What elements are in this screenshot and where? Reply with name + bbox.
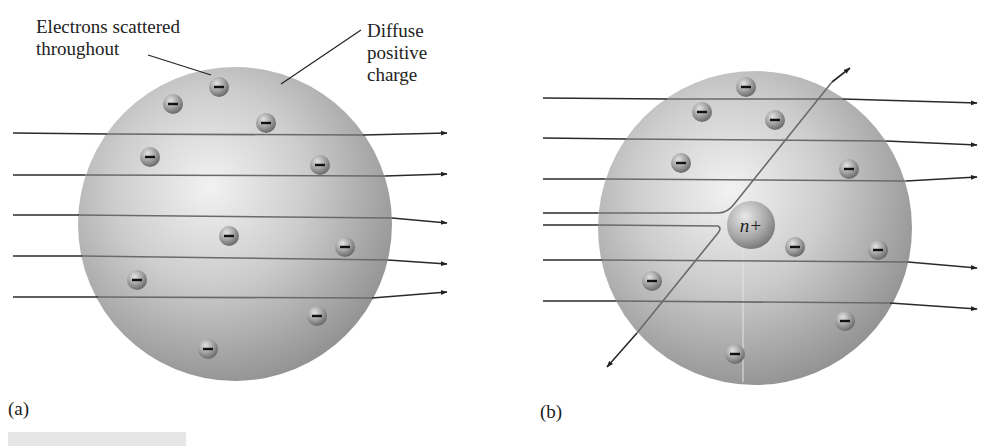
panel-label-a: (a) [8,398,29,420]
minus-sign-icon [340,246,350,248]
minus-sign-icon [840,320,850,322]
particle-path [890,303,977,309]
particle-path [98,297,372,298]
annotation-electrons: Electrons scattered throughout [36,16,180,60]
electron [209,77,229,97]
minus-sign-icon [770,119,780,121]
electron [335,237,355,257]
minus-sign-icon [261,122,271,124]
atom-model-diagram: n+ [0,0,993,446]
minus-sign-icon [312,315,322,317]
particle-path [543,98,667,99]
leader-line-positive-charge [281,30,361,84]
electron [839,159,859,179]
nucleus-label: n+ [740,215,762,236]
panel-label-b: (b) [540,401,562,423]
panel-b: n+ [543,68,977,385]
minus-sign-icon [730,353,740,355]
particle-path [85,175,385,176]
particle-path [107,134,363,135]
minus-sign-icon [145,156,155,158]
minus-sign-icon [697,111,707,113]
electron [127,270,147,290]
minus-sign-icon [203,348,213,350]
electron [736,77,756,97]
annotation-line: Electrons scattered [36,16,180,38]
electron [140,147,160,167]
nucleus: n+ [727,201,775,249]
minus-sign-icon [132,279,142,281]
minus-sign-icon [873,249,883,251]
minus-sign-icon [741,86,751,88]
minus-sign-icon [844,168,854,170]
electron [671,153,691,173]
minus-sign-icon [214,86,224,88]
electron [163,94,183,114]
minus-sign-icon [224,235,234,237]
minus-sign-icon [676,162,686,164]
electron [868,240,888,260]
positive-charge-sphere [78,67,392,381]
annotation-line: Diffuse [367,20,427,42]
annotation-line: positive [367,42,427,64]
electron [307,306,327,326]
minus-sign-icon [790,246,800,248]
deflected-path [832,68,850,82]
minus-sign-icon [315,164,325,166]
particle-path [906,177,977,181]
electron [785,237,805,257]
electron [219,226,239,246]
particle-path [372,292,447,298]
annotation-line: throughout [36,38,180,60]
particle-path [392,218,447,223]
annotation-line: charge [367,64,427,86]
electron [642,271,662,291]
electron [765,110,785,130]
electron [256,113,276,133]
minus-sign-icon [647,280,657,282]
caption-placeholder-bar [8,432,186,446]
particle-path [388,260,447,264]
electron [692,102,712,122]
electron [725,344,745,364]
minus-sign-icon [168,103,178,105]
annotation-positive-charge: Diffuse positive charge [367,20,427,86]
particle-path [385,174,447,176]
particle-path [908,262,977,268]
particle-path [843,99,977,103]
deflected-path [607,333,637,367]
particle-path [363,133,447,135]
electron [310,155,330,175]
electron [198,339,218,359]
particle-path [543,138,626,139]
particle-path [886,141,977,145]
electron [835,311,855,331]
particle-path [13,133,107,134]
